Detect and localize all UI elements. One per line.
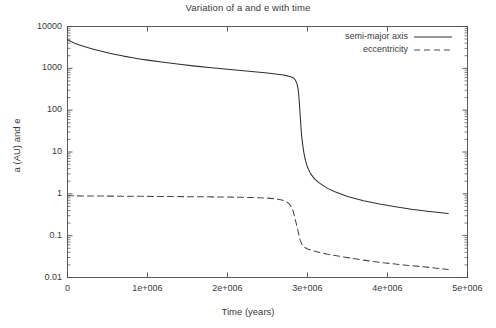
legend-item-semi-major-axis: semi-major axis [240, 31, 408, 41]
axis-ticks [68, 27, 468, 278]
chart-figure: Variation of a and e with time 100001000… [0, 0, 496, 328]
y-tick-label: 0.1 [8, 230, 62, 240]
x-tick-label: 2e+006 [198, 283, 258, 293]
y-tick-label: 1000 [8, 62, 62, 72]
data-series-group [68, 40, 449, 270]
x-tick-label: 4e+006 [358, 283, 418, 293]
x-tick-label: 3e+006 [278, 283, 338, 293]
y-tick-label: 0.01 [8, 272, 62, 282]
y-axis-label: a (AU) and e [11, 91, 22, 201]
legend-item-eccentricity: eccentricity [240, 44, 408, 54]
plot-border [68, 27, 468, 278]
y-tick-label: 10000 [8, 21, 62, 31]
x-axis-label: Time (years) [0, 306, 496, 317]
series-line-eccentricity [68, 196, 449, 270]
x-tick-label: 0 [38, 283, 98, 293]
x-tick-label: 1e+006 [118, 283, 178, 293]
x-tick-label: 5e+006 [438, 283, 496, 293]
plot-frame [68, 27, 468, 278]
legend-sample-lines [414, 37, 452, 50]
series-line-semi-major-axis [68, 40, 449, 214]
